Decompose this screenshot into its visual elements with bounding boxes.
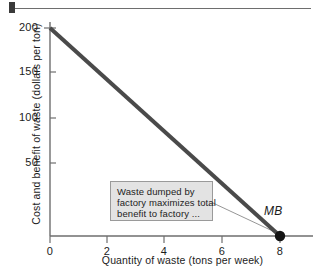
waste-dumped-callout: Waste dumped by factory maximizes total … [110,181,213,221]
callout-line-2: factory maximizes total [117,197,207,208]
equilibrium-point-marker [275,231,285,241]
x-tick-marks [50,236,280,243]
x-axis-title: Quantity of waste (tons per week) [50,254,315,266]
plot-canvas [0,0,320,275]
callout-line-3: benefit to factory ... [117,208,207,219]
callout-line-1: Waste dumped by [117,186,207,197]
mb-series-label: MB [264,204,283,218]
figure-container: 200 150 100 50 0 2 4 6 8 Cost and benefi… [0,0,320,275]
y-axis-title: Cost and benefit of waste (dollars per t… [30,17,42,232]
